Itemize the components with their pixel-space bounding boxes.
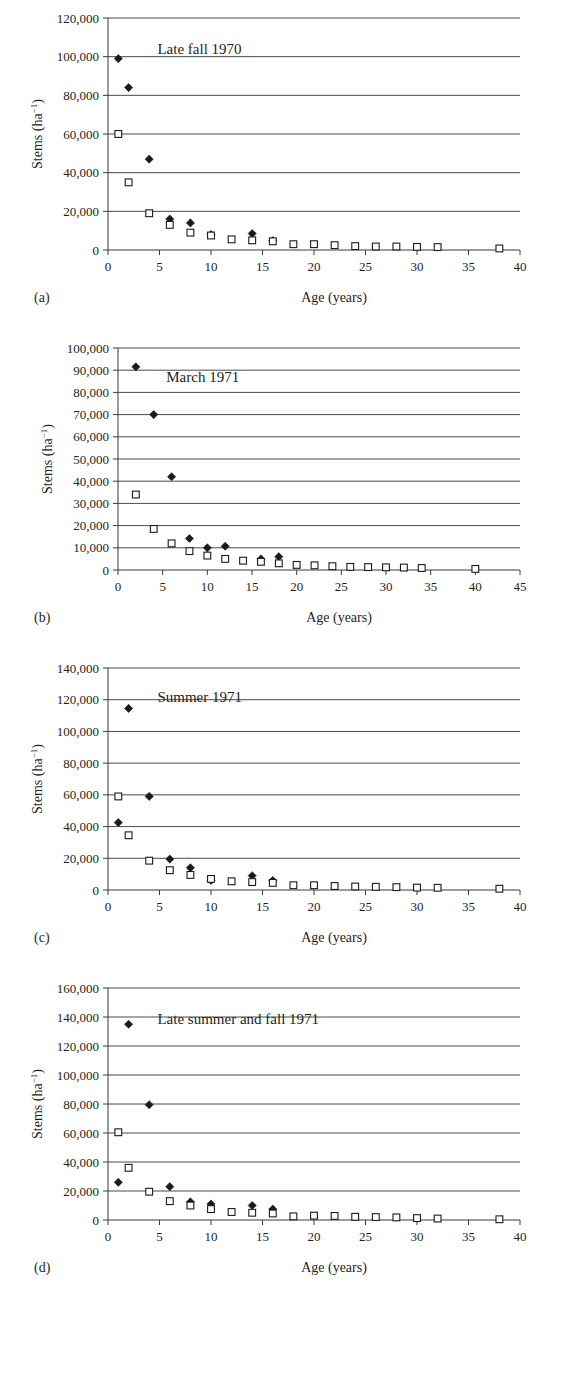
data-point-square bbox=[472, 565, 479, 572]
x-axis-ticks: 0510152025303540 bbox=[105, 1220, 527, 1244]
data-point-diamond bbox=[248, 1201, 256, 1209]
x-tick-label: 5 bbox=[159, 579, 166, 594]
y-tick-label: 30,000 bbox=[73, 496, 109, 511]
x-tick-label: 20 bbox=[308, 1229, 321, 1244]
x-tick-label: 15 bbox=[256, 259, 269, 274]
y-axis-ticks: 020,00040,00060,00080,000100,000120,0001… bbox=[57, 981, 108, 1228]
data-point-square bbox=[393, 243, 400, 250]
x-tick-label: 5 bbox=[156, 1229, 163, 1244]
x-tick-label: 20 bbox=[308, 899, 321, 914]
x-axis-title: Age (years) bbox=[301, 930, 367, 946]
x-tick-label: 0 bbox=[105, 259, 112, 274]
data-point-square bbox=[331, 1213, 338, 1220]
y-tick-label: 120,000 bbox=[57, 1039, 99, 1054]
x-tick-label: 30 bbox=[411, 1229, 424, 1244]
data-point-square bbox=[372, 243, 379, 250]
data-point-square bbox=[125, 832, 132, 839]
y-tick-label: 160,000 bbox=[57, 981, 99, 996]
y-tick-label: 100,000 bbox=[57, 49, 99, 64]
x-tick-label: 45 bbox=[514, 579, 527, 594]
x-axis-title: Age (years) bbox=[301, 1260, 367, 1276]
figure-container: 020,00040,00060,00080,000100,000120,0000… bbox=[0, 0, 566, 1374]
data-point-square bbox=[187, 1202, 194, 1209]
data-point-square bbox=[249, 879, 256, 886]
y-tick-label: 100,000 bbox=[57, 724, 99, 739]
data-point-diamond bbox=[114, 819, 122, 827]
data-point-square bbox=[258, 558, 265, 565]
data-point-square bbox=[290, 241, 297, 248]
data-point-square bbox=[290, 1213, 297, 1220]
x-tick-label: 15 bbox=[246, 579, 259, 594]
data-point-square bbox=[204, 552, 211, 559]
y-tick-label: 70,000 bbox=[73, 407, 109, 422]
data-point-square bbox=[150, 526, 157, 533]
chart-panel-a: 020,00040,00060,00080,000100,000120,0000… bbox=[0, 0, 566, 330]
data-point-diamond bbox=[125, 1020, 133, 1028]
data-point-diamond bbox=[150, 411, 158, 419]
data-point-square bbox=[187, 872, 194, 879]
x-tick-label: 20 bbox=[290, 579, 303, 594]
x-tick-label: 35 bbox=[462, 899, 475, 914]
data-point-square bbox=[166, 1198, 173, 1205]
data-point-diamond bbox=[166, 1183, 174, 1191]
data-point-square bbox=[146, 1188, 153, 1195]
x-tick-label: 40 bbox=[514, 899, 527, 914]
data-point-diamond bbox=[168, 473, 176, 481]
y-tick-label: 40,000 bbox=[73, 474, 109, 489]
x-tick-label: 35 bbox=[462, 1229, 475, 1244]
data-point-square bbox=[311, 1212, 318, 1219]
x-tick-label: 15 bbox=[256, 1229, 269, 1244]
y-tick-label: 20,000 bbox=[63, 851, 99, 866]
data-point-square bbox=[208, 232, 215, 239]
data-point-square bbox=[269, 879, 276, 886]
x-tick-label: 25 bbox=[359, 899, 372, 914]
plot-b: 010,00020,00030,00040,00050,00060,00070,… bbox=[0, 330, 566, 650]
data-point-diamond bbox=[185, 534, 193, 542]
y-tick-label: 0 bbox=[93, 1213, 100, 1228]
data-point-square bbox=[414, 244, 421, 251]
data-point-diamond bbox=[186, 864, 194, 872]
x-tick-label: 25 bbox=[335, 579, 348, 594]
y-tick-label: 80,000 bbox=[63, 1097, 99, 1112]
y-tick-label: 60,000 bbox=[73, 429, 109, 444]
data-point-square bbox=[186, 548, 193, 555]
series-filled-diamond bbox=[114, 1020, 277, 1213]
y-tick-label: 20,000 bbox=[63, 1184, 99, 1199]
plot-c: 020,00040,00060,00080,000100,000120,0001… bbox=[0, 650, 566, 970]
y-axis-title: Stems (ha−1) bbox=[29, 99, 46, 169]
y-tick-label: 20,000 bbox=[63, 204, 99, 219]
x-tick-label: 10 bbox=[205, 259, 218, 274]
data-point-square bbox=[168, 540, 175, 547]
x-tick-label: 0 bbox=[115, 579, 122, 594]
x-tick-label: 10 bbox=[201, 579, 214, 594]
panel-title-annotation: Late fall 1970 bbox=[157, 41, 241, 57]
y-tick-label: 80,000 bbox=[63, 756, 99, 771]
data-point-square bbox=[400, 564, 407, 571]
data-point-square bbox=[352, 243, 359, 250]
x-axis-ticks: 0510152025303540 bbox=[105, 250, 527, 274]
y-tick-label: 0 bbox=[103, 563, 110, 578]
data-point-square bbox=[393, 884, 400, 891]
data-point-square bbox=[187, 229, 194, 236]
data-point-square bbox=[290, 882, 297, 889]
data-point-diamond bbox=[145, 155, 153, 163]
data-point-square bbox=[115, 131, 122, 138]
y-tick-label: 80,000 bbox=[73, 385, 109, 400]
x-axis-ticks: 051015202530354045 bbox=[115, 570, 527, 594]
data-point-square bbox=[115, 793, 122, 800]
panel-letter: (c) bbox=[34, 930, 50, 946]
data-point-square bbox=[125, 1164, 132, 1171]
x-tick-label: 15 bbox=[256, 899, 269, 914]
x-tick-label: 30 bbox=[411, 259, 424, 274]
data-point-square bbox=[434, 884, 441, 891]
data-point-square bbox=[228, 1209, 235, 1216]
data-point-square bbox=[414, 1215, 421, 1222]
data-point-square bbox=[352, 1213, 359, 1220]
panel-title-annotation: March 1971 bbox=[166, 369, 239, 385]
panel-letter: (b) bbox=[34, 610, 51, 626]
y-tick-label: 120,000 bbox=[57, 11, 99, 26]
x-tick-label: 5 bbox=[156, 259, 163, 274]
data-point-square bbox=[434, 244, 441, 251]
x-axis-title: Age (years) bbox=[301, 290, 367, 306]
data-point-diamond bbox=[186, 219, 194, 227]
